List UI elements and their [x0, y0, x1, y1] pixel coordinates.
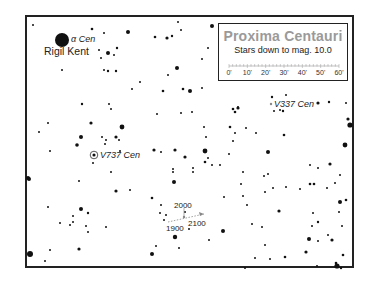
star [345, 102, 347, 104]
v737-cen-star [92, 153, 95, 156]
scale-tick-label: 50' [316, 69, 325, 76]
star [27, 251, 33, 257]
star [223, 196, 225, 198]
scale-bar: 0'10'20'30'40'50'60' [219, 64, 347, 78]
star [346, 117, 349, 120]
star [234, 132, 236, 134]
star [201, 58, 203, 60]
star [154, 36, 157, 39]
star [104, 143, 106, 145]
star [100, 57, 102, 59]
star [232, 140, 234, 142]
star [228, 153, 230, 155]
star [208, 239, 210, 241]
star [139, 81, 141, 83]
star-chart: α Cen Rigil Kent V737 Cen V337 Cen 2000 … [0, 0, 374, 283]
star [273, 110, 275, 112]
star [120, 125, 125, 130]
star [338, 211, 340, 213]
star [126, 30, 130, 34]
star [236, 106, 239, 109]
star [89, 121, 92, 124]
star [244, 267, 246, 269]
star [180, 112, 182, 114]
star [245, 127, 247, 129]
star [272, 187, 274, 189]
star [172, 168, 174, 170]
star [282, 110, 284, 112]
star [103, 32, 105, 34]
star [330, 238, 333, 241]
star [283, 134, 286, 137]
star [311, 225, 313, 227]
star [316, 101, 319, 104]
star [113, 54, 115, 56]
star [49, 150, 51, 152]
star [203, 126, 205, 128]
star [309, 164, 311, 166]
map-subtitle: Stars down to mag. 10.0 [219, 45, 347, 55]
star [114, 135, 117, 138]
star [240, 183, 242, 185]
star [254, 257, 256, 259]
star [165, 214, 167, 216]
star [107, 70, 109, 72]
year-1900-label: 1900 [166, 224, 184, 233]
star [75, 143, 79, 147]
star [316, 265, 318, 267]
star [317, 240, 319, 242]
star [347, 122, 352, 127]
star [72, 215, 74, 217]
star [339, 174, 341, 176]
star [229, 126, 232, 129]
star [47, 206, 49, 208]
star [242, 195, 244, 197]
title-box: Proxima Centauri Stars down to mag. 10.0… [218, 23, 348, 81]
star [328, 101, 330, 103]
star [61, 69, 63, 71]
scale-tick-label: 0' [226, 69, 231, 76]
star [105, 139, 107, 141]
star [87, 212, 89, 214]
star [334, 182, 336, 184]
star [156, 113, 158, 115]
star [264, 244, 266, 246]
scale-tick-label: 60' [334, 69, 343, 76]
star [205, 136, 207, 138]
v337-cen-star [270, 103, 272, 105]
star [173, 235, 177, 239]
star [155, 245, 157, 247]
star [203, 149, 208, 154]
v337-cen-label: V337 Cen [274, 99, 314, 109]
star [251, 223, 253, 225]
star [110, 171, 112, 173]
scale-tick-label: 10' [243, 69, 252, 76]
star [221, 229, 225, 233]
star [328, 162, 331, 165]
star [152, 148, 155, 151]
year-2100-label: 2100 [188, 219, 206, 228]
star [285, 94, 287, 96]
star [232, 108, 235, 111]
star [277, 209, 280, 212]
star [263, 175, 265, 177]
star [79, 207, 83, 211]
star [44, 260, 46, 262]
star [106, 51, 110, 55]
star [171, 35, 173, 37]
star [163, 219, 165, 221]
star [264, 191, 266, 193]
star [162, 90, 165, 93]
star [246, 204, 248, 206]
star [78, 180, 80, 182]
star [191, 111, 193, 113]
star [219, 164, 221, 166]
rigil-kent-label: Rigil Kent [44, 45, 89, 57]
star [271, 96, 273, 98]
star [343, 143, 348, 148]
star [167, 74, 169, 76]
star [85, 225, 87, 227]
star [172, 171, 174, 173]
star [49, 249, 51, 251]
star [116, 47, 118, 49]
